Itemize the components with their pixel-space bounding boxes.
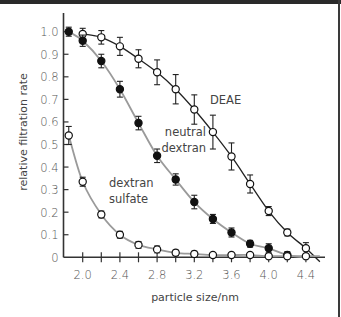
open-circle-marker xyxy=(302,253,309,260)
y-tick-label: 0.6 xyxy=(40,115,58,129)
y-tick-label: 0.2 xyxy=(40,206,58,220)
filled-circle-marker xyxy=(154,152,161,159)
open-circle-marker xyxy=(209,128,216,135)
filled-circle-marker xyxy=(228,229,235,236)
open-circle-marker xyxy=(116,43,123,50)
open-circle-marker xyxy=(265,207,272,214)
open-circle-marker xyxy=(65,132,72,139)
y-tick-label: 0 xyxy=(51,251,58,265)
y-tick-label: 0.4 xyxy=(40,161,58,175)
open-circle-marker xyxy=(228,251,235,258)
open-circle-marker xyxy=(79,178,86,185)
filled-circle-marker xyxy=(191,198,198,205)
y-tick-label: 0.5 xyxy=(40,138,58,152)
y-tick-label: 0.7 xyxy=(40,93,58,107)
label-neutral-line1: neutral xyxy=(165,125,206,139)
open-circle-marker xyxy=(302,245,309,252)
filled-circle-marker xyxy=(98,57,105,64)
open-circle-marker xyxy=(209,251,216,258)
label-neutral-line2: dextran xyxy=(161,141,206,155)
x-axis-title: particle size/nm xyxy=(151,291,239,304)
open-circle-marker xyxy=(247,251,254,258)
open-circle-marker xyxy=(172,249,179,256)
x-tick-label: 2.0 xyxy=(74,268,92,282)
filled-circle-marker xyxy=(135,119,142,126)
open-circle-marker xyxy=(154,69,161,76)
filled-circle-marker xyxy=(65,28,72,35)
label-sulfate-line1: dextran xyxy=(109,176,154,190)
open-circle-marker xyxy=(98,211,105,218)
x-tick-label: 3.6 xyxy=(222,268,240,282)
x-tick-label: 2.4 xyxy=(111,268,129,282)
label-sulfate-line2: sulfate xyxy=(109,192,148,206)
y-axis-title: relative filtration rate xyxy=(17,73,30,191)
open-circle-marker xyxy=(284,229,291,236)
y-tick-label: 0.3 xyxy=(40,183,58,197)
open-circle-marker xyxy=(284,253,291,260)
x-tick-label: 3.2 xyxy=(185,268,203,282)
open-circle-marker xyxy=(265,253,272,260)
x-tick-label: 4.4 xyxy=(297,268,315,282)
filled-circle-marker xyxy=(79,37,86,44)
filled-circle-marker xyxy=(172,176,179,183)
x-tick-label: 2.8 xyxy=(148,268,166,282)
y-tick-label: 0.9 xyxy=(40,48,58,62)
x-tick-label: 4.0 xyxy=(260,268,278,282)
open-circle-marker xyxy=(172,86,179,93)
filled-circle-marker xyxy=(265,245,272,252)
y-tick-label: 0.1 xyxy=(40,228,58,242)
open-circle-marker xyxy=(154,246,161,253)
y-tick-label: 0.8 xyxy=(40,70,58,84)
filled-circle-marker xyxy=(209,215,216,222)
open-circle-marker xyxy=(191,250,198,257)
open-circle-marker xyxy=(135,55,142,62)
open-circle-marker xyxy=(116,231,123,238)
filled-circle-marker xyxy=(116,86,123,93)
open-circle-marker xyxy=(191,106,198,113)
open-circle-marker xyxy=(247,180,254,187)
filled-circle-marker xyxy=(247,240,254,247)
open-circle-marker xyxy=(228,153,235,160)
open-circle-marker xyxy=(135,241,142,248)
label-deae: DEAE xyxy=(210,93,241,107)
chart-canvas: 00.10.20.30.40.50.60.70.80.91.02.02.42.8… xyxy=(0,0,341,317)
open-circle-marker xyxy=(98,34,105,41)
y-tick-label: 1.0 xyxy=(40,25,58,39)
